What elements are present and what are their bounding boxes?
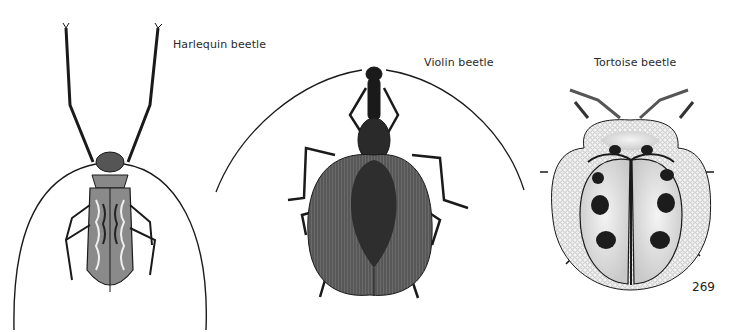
violin-beetle-illustration <box>216 67 524 298</box>
beetle-illustrations <box>0 0 753 332</box>
book-page: Harlequin beetle Violin beetle Tortoise … <box>0 0 753 332</box>
harlequin-beetle-illustration <box>14 23 206 330</box>
tortoise-beetle-caption: Tortoise beetle <box>594 56 676 69</box>
violin-beetle-caption: Violin beetle <box>424 56 494 69</box>
tortoise-beetle-illustration <box>540 90 714 290</box>
harlequin-beetle-caption: Harlequin beetle <box>173 38 266 51</box>
page-number: 269 <box>692 280 715 294</box>
